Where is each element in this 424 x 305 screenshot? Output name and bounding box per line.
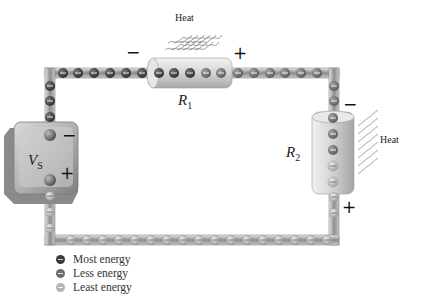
r2-neg-terminal: − bbox=[343, 96, 357, 113]
least-energy-dot-icon bbox=[56, 283, 65, 292]
r1-label: R1 bbox=[178, 92, 192, 111]
source-pos-terminal: + bbox=[60, 165, 74, 182]
legend-label: Most energy bbox=[73, 253, 131, 265]
legend-item-most: Most energy bbox=[56, 252, 132, 266]
heat-waves-r1 bbox=[165, 35, 222, 50]
heat-label-r2: Heat bbox=[380, 134, 399, 145]
legend-item-less: Less energy bbox=[56, 266, 132, 280]
r2-label: R2 bbox=[286, 144, 300, 163]
r1-neg-terminal: − bbox=[126, 44, 140, 61]
source-neg-terminal: − bbox=[62, 127, 76, 144]
r1-pos-terminal: + bbox=[233, 45, 247, 62]
heat-waves-r2 bbox=[358, 110, 378, 174]
r2-pos-terminal: + bbox=[342, 199, 356, 216]
energy-legend: Most energy Less energy Least energy bbox=[56, 252, 132, 294]
most-energy-dot-icon bbox=[56, 255, 65, 264]
battery-pos-terminal bbox=[44, 174, 56, 186]
source-label: VS bbox=[28, 152, 43, 171]
legend-label: Least energy bbox=[73, 281, 132, 293]
legend-item-least: Least energy bbox=[56, 280, 132, 294]
legend-label: Less energy bbox=[73, 267, 128, 279]
battery-neg-terminal bbox=[44, 129, 56, 141]
heat-label-r1: Heat bbox=[175, 12, 194, 23]
circuit-diagram: Heat Heat − + − + − + R1 R2 VS Most ener… bbox=[0, 0, 424, 305]
less-energy-dot-icon bbox=[56, 269, 65, 278]
